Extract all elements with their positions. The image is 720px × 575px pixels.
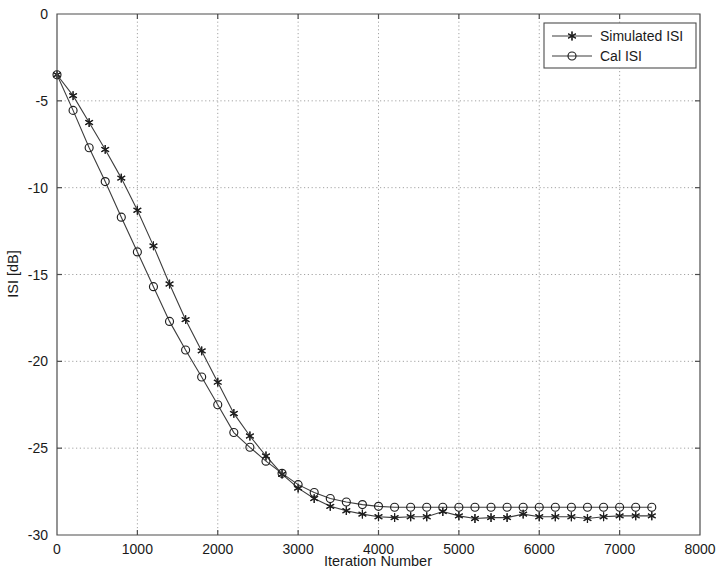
series-simulated-isi — [53, 70, 655, 523]
legend-label: Simulated ISI — [600, 28, 683, 44]
x-tick-label: 3000 — [283, 541, 314, 557]
y-tick-label: -30 — [28, 527, 48, 543]
legend: Simulated ISICal ISI — [544, 23, 696, 68]
x-axis-title: Iteration Number — [324, 553, 432, 569]
marker-star — [150, 241, 158, 250]
y-tick-label: -25 — [28, 440, 48, 456]
axes-group — [57, 14, 700, 535]
x-tick-label: 7000 — [604, 541, 635, 557]
grid-lines — [57, 14, 700, 535]
y-axis-title: ISI [dB] — [5, 250, 21, 298]
marker-star — [326, 502, 334, 511]
series-line — [57, 75, 652, 519]
tick-labels-group: 0100020003000400050006000700080000-5-10-… — [28, 6, 716, 557]
legend-label: Cal ISI — [600, 48, 642, 64]
axis-frame — [57, 14, 700, 535]
marker-star — [117, 174, 125, 183]
isi-convergence-chart: 0100020003000400050006000700080000-5-10-… — [0, 0, 720, 575]
marker-star — [85, 118, 93, 127]
y-tick-label: -20 — [28, 353, 48, 369]
x-tick-label: 6000 — [524, 541, 555, 557]
marker-star — [198, 347, 206, 356]
y-tick-label: -5 — [36, 93, 49, 109]
marker-star — [134, 206, 142, 215]
y-tick-label: -15 — [28, 267, 48, 283]
x-tick-label: 5000 — [443, 541, 474, 557]
marker-star — [166, 280, 174, 289]
figure-container: 0100020003000400050006000700080000-5-10-… — [0, 0, 720, 575]
marker-star — [182, 315, 190, 324]
x-tick-label: 2000 — [202, 541, 233, 557]
marker-star — [101, 145, 109, 154]
y-tick-label: 0 — [40, 6, 48, 22]
series-line — [57, 75, 652, 507]
marker-star — [343, 506, 351, 515]
data-series-group — [53, 70, 656, 523]
series-cal-isi — [53, 71, 656, 511]
marker-star — [214, 378, 222, 387]
y-tick-label: -10 — [28, 180, 48, 196]
x-tick-label: 0 — [53, 541, 61, 557]
x-tick-label: 1000 — [122, 541, 153, 557]
x-tick-label: 8000 — [684, 541, 715, 557]
